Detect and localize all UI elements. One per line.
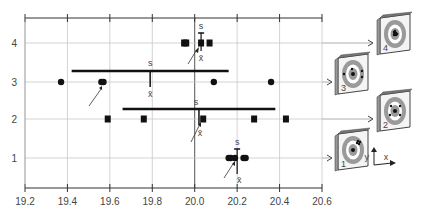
target-bullseye	[351, 72, 355, 76]
shot-hole	[343, 73, 345, 75]
legend-y-arrow-icon	[371, 147, 377, 152]
mean-label: x̄	[199, 53, 204, 63]
pointer-line	[224, 164, 233, 178]
target-label: 1	[341, 159, 346, 169]
y-tick-label: 4	[11, 38, 17, 49]
target-2-icon: 2	[377, 89, 412, 132]
pointer-line	[89, 89, 101, 106]
mean-label: x̄	[198, 128, 203, 138]
shot-hole	[361, 76, 363, 78]
target-board-edge	[335, 58, 338, 95]
data-point-square	[283, 116, 289, 123]
data-point-square	[207, 40, 213, 47]
target-4-icon: 4	[377, 12, 412, 55]
target-board-edge	[377, 95, 380, 132]
std-label: s	[235, 137, 240, 147]
legend-x-arrow-icon	[390, 160, 396, 166]
x-tick-label: 19.8	[143, 196, 163, 207]
x-tick-label: 20.4	[270, 196, 290, 207]
y-tick-label: 2	[11, 114, 17, 125]
row-1: sx̄	[224, 137, 249, 185]
data-point-circle	[211, 79, 217, 85]
std-label: s	[199, 21, 204, 31]
legend-x-label: x	[384, 152, 389, 162]
target-bullseye	[351, 148, 355, 152]
shot-hole	[399, 114, 401, 116]
data-point-square	[251, 116, 257, 123]
shot-hole	[394, 30, 396, 32]
mean-label: x̄	[237, 175, 242, 185]
target-label: 4	[383, 43, 388, 53]
data-point-square	[200, 116, 206, 123]
mean-label: x̄	[148, 89, 153, 99]
x-tick-label: 20.2	[227, 196, 247, 207]
data-point-circle	[100, 79, 106, 85]
data-series: sx̄sx̄sx̄sx̄	[58, 21, 289, 185]
target-1-icon: 1	[335, 128, 370, 171]
data-point-circle	[268, 79, 274, 85]
x-tick-label: 19.6	[100, 196, 120, 207]
shot-hole	[361, 70, 363, 72]
target-label: 3	[341, 83, 346, 93]
shot-hole	[396, 33, 398, 35]
shot-hole	[390, 105, 392, 107]
x-tick-label: 20.6	[312, 196, 332, 207]
target-board-edge	[377, 18, 380, 55]
data-point-circle	[58, 79, 64, 85]
std-label: s	[194, 97, 199, 107]
x-tick-label: 19.4	[58, 196, 78, 207]
shot-hole	[351, 68, 353, 70]
target-3-icon: 3	[335, 52, 370, 95]
std-label: s	[148, 58, 153, 68]
x-tick-label: 19.2	[15, 196, 35, 207]
data-point-square	[183, 40, 189, 47]
target-board-edge	[335, 134, 338, 171]
legend-y-label: y	[365, 152, 370, 162]
data-point-circle	[242, 155, 248, 161]
precision-accuracy-chart: 19.219.419.619.820.020.220.420.61234 sx̄…	[0, 0, 425, 213]
data-point-square	[105, 116, 111, 123]
y-tick-label: 1	[11, 153, 17, 164]
data-point-square	[141, 116, 147, 123]
shot-hole	[399, 105, 401, 107]
target-icons: 4321	[335, 12, 412, 171]
axes-legend-icon: yx	[365, 147, 397, 166]
legend-x-axis	[374, 163, 392, 165]
shot-hole	[359, 141, 361, 143]
row-4: sx̄	[181, 21, 212, 64]
target-label: 2	[383, 120, 388, 130]
row-2: sx̄	[105, 97, 289, 142]
x-tick-label: 20.0	[185, 196, 205, 207]
y-tick-label: 3	[11, 77, 17, 88]
target-bullseye	[393, 109, 397, 113]
shot-hole	[389, 114, 391, 116]
